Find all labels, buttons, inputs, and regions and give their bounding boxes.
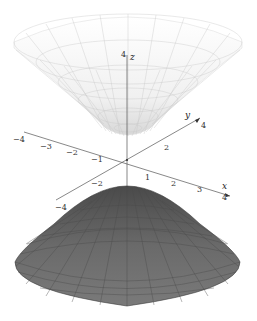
x-axis-label: x	[222, 181, 227, 191]
y-tick-label: 4	[201, 121, 206, 130]
z-axis-label: z	[129, 52, 135, 62]
x-tick-label: 4	[222, 193, 227, 202]
x-tick-label: −2	[66, 148, 78, 157]
y-tick-label: −2	[91, 179, 103, 188]
hyperboloid-plot: z y x 4 −4 −3 −2 −1 1 2 3 4 −4 −2 2 4	[0, 0, 257, 321]
upper-sheet	[14, 14, 242, 136]
y-axis-arrow-icon	[195, 118, 200, 123]
x-tick-label: 3	[197, 185, 202, 194]
x-tick-label: −4	[13, 135, 25, 144]
z-tick-label: 4	[121, 50, 126, 59]
x-tick-label: −3	[40, 142, 52, 151]
lower-sheet	[15, 186, 240, 306]
y-axis-label: y	[184, 110, 191, 120]
x-tick-label: 1	[145, 173, 150, 182]
x-tick-label: 2	[171, 179, 176, 188]
y-tick-label: 2	[164, 143, 169, 152]
x-tick-label: −1	[91, 155, 103, 164]
y-tick-label: −4	[55, 203, 67, 212]
origin-point	[126, 159, 128, 161]
plot-canvas: z y x 4 −4 −3 −2 −1 1 2 3 4 −4 −2 2 4	[0, 0, 257, 321]
